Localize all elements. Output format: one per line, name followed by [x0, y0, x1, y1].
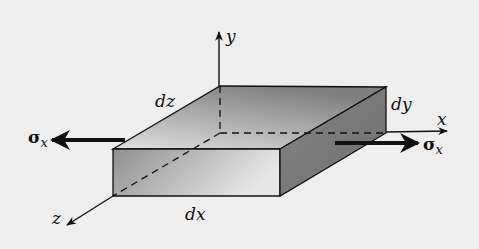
- dz-label: dz: [155, 91, 176, 111]
- z-axis: [67, 196, 113, 225]
- stress-element-diagram: y x z dz dy dx σx σx: [0, 0, 479, 249]
- dy-label: dy: [391, 94, 412, 114]
- sigma-x-left-label: σx: [28, 127, 49, 150]
- dx-label: dx: [185, 204, 206, 224]
- x-axis: [386, 131, 447, 132]
- x-axis-label: x: [437, 109, 447, 129]
- y-axis-label: y: [225, 26, 236, 46]
- z-axis-label: z: [51, 208, 62, 228]
- sigma-x-right-label: σx: [423, 134, 444, 157]
- front-face: [113, 149, 280, 196]
